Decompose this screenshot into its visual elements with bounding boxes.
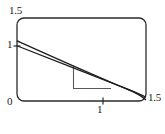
origin-label: 0 [7, 96, 12, 107]
y-axis-max-label: 1.5 [9, 5, 22, 16]
y-axis-one-label: 1 [7, 39, 12, 50]
plot-figure [0, 0, 165, 134]
x-axis-max-label: 1.5 [148, 92, 161, 103]
x-axis-one-label: 1 [97, 104, 102, 115]
